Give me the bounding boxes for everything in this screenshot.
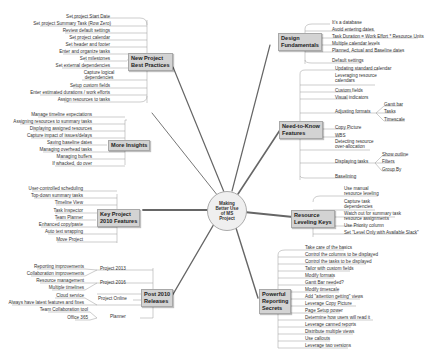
- leaf-item[interactable]: Enter estimated durations / work efforts: [30, 90, 110, 95]
- branch-resource-leveling-keys[interactable]: Resource Leveling Keys: [291, 210, 335, 228]
- leaf-item[interactable]: Distribute multiple views: [305, 329, 354, 334]
- leaf-item[interactable]: Gantt Bar needed?: [305, 280, 344, 285]
- leaf-item[interactable]: Custom fields: [335, 88, 363, 93]
- leaf-item[interactable]: Enhanced copy/paste: [39, 222, 83, 227]
- branch-title: Best Practices: [131, 62, 170, 69]
- leaf-item[interactable]: Copy Picture: [335, 125, 361, 130]
- branch-key-project-2010-features[interactable]: Key Project 2010 Features: [97, 209, 140, 227]
- leaf-item[interactable]: Multiple timelines: [49, 285, 84, 290]
- leaf-item[interactable]: Collaboration improvements: [27, 271, 84, 276]
- leaf-item[interactable]: Assign resources to tasks: [58, 97, 110, 102]
- leaf-item[interactable]: Page Setup power: [305, 308, 343, 313]
- leaf-item[interactable]: Task Inspector: [53, 208, 83, 213]
- leaf-item[interactable]: Set project calendar: [69, 35, 110, 40]
- leaf-item[interactable]: WBS: [335, 133, 345, 138]
- leaf-item[interactable]: Task Duration = Work Effort * Resource U…: [332, 34, 424, 39]
- leaf-item[interactable]: Control the tasks to be displayed: [305, 259, 372, 264]
- leaf-item[interactable]: Leveraging resource calendars: [335, 73, 380, 83]
- leaf-item[interactable]: Assigning resources to summary tasks: [13, 119, 92, 124]
- branch-new-project-best-practices[interactable]: New Project Best Practices: [128, 53, 173, 71]
- leaf-item[interactable]: Managing overhead tasks: [39, 147, 92, 152]
- leaf-item[interactable]: Capture task dependencies: [344, 199, 384, 209]
- leaf-item[interactable]: Office 365: [67, 315, 88, 320]
- leaf-item[interactable]: Cloud service: [56, 293, 84, 298]
- leaf-item[interactable]: Leverage two versions: [305, 343, 351, 348]
- leaf-item[interactable]: Tailor with custom fields: [305, 266, 354, 271]
- branch-powerful-reporting-secrets[interactable]: Powerful Reporting Secrets: [259, 289, 291, 314]
- leaf-item[interactable]: Baselining: [335, 174, 356, 179]
- leaf-item[interactable]: Updating standard calendar: [335, 66, 391, 71]
- branch-post-2010-releases[interactable]: Post 2010 Releases: [141, 289, 173, 307]
- leaf-item[interactable]: Leverage canned reports: [305, 322, 356, 327]
- leaf-item[interactable]: Manage timeline expectations: [31, 112, 92, 117]
- leaf-item[interactable]: Reporting improvements: [34, 264, 84, 269]
- leaf-item[interactable]: Team Collaboration tool: [40, 307, 88, 312]
- leaf-item[interactable]: Use callouts: [305, 336, 330, 341]
- sub-branch-planner[interactable]: Planner: [110, 314, 126, 319]
- leaf-item[interactable]: Review default settings: [63, 28, 110, 33]
- branch-title: Secrets: [262, 305, 288, 312]
- leaf-item[interactable]: Group By: [382, 167, 401, 172]
- branch-title: Post 2010: [144, 291, 170, 298]
- leaf-item[interactable]: Filters: [382, 159, 395, 164]
- leaf-item[interactable]: Default settings: [332, 58, 364, 63]
- leaf-item[interactable]: Set project Summary Task (Row Zero): [33, 21, 111, 26]
- leaf-item[interactable]: It's a database: [332, 20, 362, 25]
- branch-design-fundamentals[interactable]: Design Fundamentals: [278, 33, 322, 51]
- leaf-item[interactable]: Add "attention getting" views: [305, 294, 363, 299]
- leaf-item[interactable]: Capture impact of issues/delays: [27, 133, 92, 138]
- leaf-item[interactable]: Setup custom fields: [70, 83, 110, 88]
- leaf-item[interactable]: Auto text wrapping: [45, 229, 83, 234]
- leaf-item[interactable]: Multiple calendar levels: [332, 41, 380, 46]
- leaf-item[interactable]: User-controlled scheduling: [29, 186, 83, 191]
- leaf-item[interactable]: Set project Start Date: [66, 14, 110, 19]
- leaf-item[interactable]: Saving baseline dates: [47, 140, 92, 145]
- leaf-item[interactable]: Set "Level Only with Available Slack": [344, 230, 419, 235]
- leaf-item[interactable]: Modify formats: [305, 273, 335, 278]
- leaf-item[interactable]: Modify timescale: [305, 287, 339, 292]
- leaf-item[interactable]: Detecting resource over-allocation: [335, 139, 380, 149]
- leaf-item[interactable]: Watch out for summary task resource assi…: [344, 211, 406, 221]
- leaf-item[interactable]: Always have latest features and fixes: [8, 300, 84, 305]
- branch-title: Reporting: [262, 298, 288, 305]
- leaf-item[interactable]: Set milestones: [80, 56, 110, 61]
- leaf-item[interactable]: Adjusting formats: [335, 109, 371, 114]
- leaf-item[interactable]: Control the columns to be displayed: [305, 252, 378, 257]
- leaf-item[interactable]: Managing buffers: [57, 154, 92, 159]
- leaf-item[interactable]: If whacked, do over: [52, 161, 92, 166]
- leaf-item[interactable]: Enter and organize tasks: [59, 49, 110, 54]
- sub-branch-project-2016[interactable]: Project 2016: [100, 280, 126, 285]
- leaf-item[interactable]: Timeline View: [55, 200, 83, 205]
- leaf-item[interactable]: Avoid entering dates: [332, 27, 374, 32]
- leaf-item[interactable]: Use Priority column: [344, 223, 384, 228]
- branch-title: Key Project: [100, 211, 137, 218]
- leaf-item[interactable]: Determine how users will read it: [305, 315, 370, 320]
- leaf-item[interactable]: Resource management: [36, 278, 84, 283]
- branch-need-to-know-features[interactable]: Need-to-Know Features: [279, 121, 323, 139]
- leaf-item[interactable]: Take care of the basics: [305, 245, 352, 250]
- leaf-item[interactable]: Move Project: [56, 237, 83, 242]
- leaf-item[interactable]: Displaying tasks: [335, 159, 368, 164]
- branch-title: Design: [281, 35, 319, 42]
- branch-title: 2010 Features: [100, 218, 137, 225]
- sub-branch-project-online[interactable]: Project Online: [98, 296, 127, 301]
- leaf-item[interactable]: Capture logical dependencies: [82, 70, 116, 80]
- branch-more-insights[interactable]: More Insights: [108, 140, 150, 151]
- central-topic[interactable]: Making Better Use of MS Project: [207, 191, 247, 231]
- leaf-item[interactable]: Show outline: [382, 152, 408, 157]
- leaf-item[interactable]: Team Planner: [55, 215, 83, 220]
- branch-title: Resource: [294, 212, 332, 219]
- leaf-item[interactable]: Top-down summary tasks: [31, 193, 83, 198]
- leaf-item[interactable]: Visual indicators: [335, 95, 368, 100]
- leaf-item[interactable]: Gantt bar: [384, 102, 403, 107]
- leaf-item[interactable]: Tasks: [384, 109, 396, 114]
- branch-title: Features: [282, 130, 320, 137]
- sub-branch-project-2013[interactable]: Project 2013: [100, 266, 126, 271]
- leaf-item[interactable]: Timescale: [384, 117, 405, 122]
- leaf-item[interactable]: Planned, Actual and Baseline dates: [332, 48, 404, 53]
- leaf-item[interactable]: Set header and footer: [66, 42, 110, 47]
- leaf-item[interactable]: Leverage Copy Picture: [305, 301, 352, 306]
- leaf-item[interactable]: Set external dependencies: [56, 63, 110, 68]
- leaf-item[interactable]: Use manual resource leveling: [344, 186, 386, 196]
- leaf-item[interactable]: Displaying assigned resources: [30, 126, 92, 131]
